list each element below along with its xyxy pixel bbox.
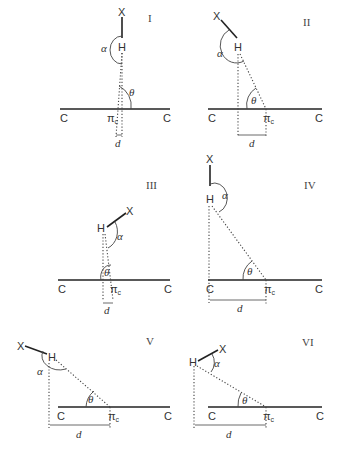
x-atom-label: X bbox=[213, 10, 221, 22]
carbon-label-left: C bbox=[57, 410, 65, 422]
panel-II: II C C X H α θ πc d bbox=[208, 10, 323, 149]
carbon-label-right: C bbox=[163, 112, 171, 124]
alpha-label: α bbox=[222, 189, 228, 201]
h-to-centroid-line bbox=[197, 366, 266, 407]
h-to-centroid-line bbox=[56, 360, 110, 407]
h-to-centroid-line bbox=[212, 206, 266, 280]
theta-label: θ bbox=[251, 94, 257, 106]
carbon-label-left: C bbox=[60, 112, 68, 124]
panel-I: I C C X H α θ πc d bbox=[60, 6, 171, 149]
carbon-label-right: C bbox=[316, 410, 324, 422]
alpha-label: α bbox=[214, 357, 220, 369]
distance-label: d bbox=[237, 302, 243, 314]
pi-c-label: πc bbox=[110, 283, 122, 296]
panel-numeral: III bbox=[146, 179, 157, 191]
pi-c-label: πc bbox=[107, 112, 119, 125]
theta-arc bbox=[238, 393, 241, 407]
panel-VI: VI C C X H α θ πc d bbox=[189, 336, 324, 440]
carbon-label-left: C bbox=[58, 283, 66, 295]
carbon-label-right: C bbox=[164, 410, 172, 422]
distance-label: d bbox=[115, 137, 121, 149]
alpha-label: α bbox=[217, 47, 223, 59]
theta-label: θ bbox=[88, 393, 94, 405]
alpha-label: α bbox=[101, 42, 107, 54]
panel-III: III C C X H α θ πc d bbox=[58, 179, 172, 316]
x-h-bond bbox=[25, 346, 47, 354]
theta-label: θ bbox=[242, 394, 248, 406]
pi-c-label: πc bbox=[263, 112, 275, 125]
alpha-label: α bbox=[37, 365, 43, 377]
carbon-label-right: C bbox=[164, 283, 172, 295]
carbon-label-right: C bbox=[315, 112, 323, 124]
panel-numeral: VI bbox=[302, 336, 314, 348]
h-atom-label: H bbox=[189, 356, 197, 368]
carbon-label-left: C bbox=[208, 410, 216, 422]
panel-numeral: II bbox=[303, 16, 311, 28]
alpha-label: α bbox=[117, 230, 123, 242]
distance-label: d bbox=[104, 304, 110, 316]
h-atom-label: H bbox=[48, 351, 56, 363]
panel-numeral: V bbox=[146, 335, 154, 347]
x-atom-label: X bbox=[17, 340, 25, 352]
h-atom-label: H bbox=[118, 41, 126, 53]
panel-IV: IV C C X H α θ πc d bbox=[206, 153, 323, 314]
h-atom-label: H bbox=[234, 41, 242, 53]
hydrogen-bond-geometry-diagram: I C C X H α θ πc d II C C X H α θ πc d bbox=[0, 0, 338, 451]
carbon-label-left: C bbox=[206, 283, 214, 295]
carbon-label-right: C bbox=[315, 283, 323, 295]
theta-label: θ bbox=[247, 265, 253, 277]
pi-c-label: πc bbox=[108, 410, 120, 423]
pi-c-label: πc bbox=[263, 410, 275, 423]
x-atom-label: X bbox=[118, 6, 126, 18]
h-atom-label: H bbox=[97, 222, 105, 234]
x-atom-label: X bbox=[126, 205, 134, 217]
distance-label: d bbox=[249, 137, 255, 149]
x-atom-label: X bbox=[219, 343, 227, 355]
panel-V: V C C X H α θ πc d bbox=[17, 335, 172, 440]
distance-label: d bbox=[76, 428, 82, 440]
carbon-label-left: C bbox=[208, 112, 216, 124]
theta-label: θ bbox=[104, 266, 110, 278]
pi-c-label: πc bbox=[264, 283, 276, 296]
panel-numeral: I bbox=[148, 12, 152, 24]
h-atom-label: H bbox=[206, 193, 214, 205]
theta-label: θ bbox=[129, 86, 135, 98]
distance-label: d bbox=[226, 428, 232, 440]
panel-numeral: IV bbox=[304, 179, 316, 191]
x-atom-label: X bbox=[206, 153, 214, 165]
